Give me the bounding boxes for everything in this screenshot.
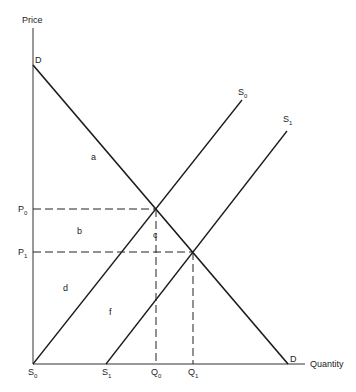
supply-demand-diagram (0, 0, 356, 392)
demand-curve (33, 65, 288, 364)
supply-curve-s1 (106, 131, 287, 364)
supply-s1-label: S1 (283, 115, 292, 126)
quantity-tick-s1: S1 (102, 368, 111, 379)
x-axis-label: Quantity (310, 360, 344, 369)
area-f-label: f (109, 308, 112, 317)
area-a-label: a (91, 153, 96, 162)
price-tick-p0: P0 (18, 205, 27, 216)
area-b-label: b (77, 227, 82, 236)
supply-s0-label: S0 (238, 88, 247, 99)
price-tick-p1: P1 (18, 248, 27, 259)
quantity-tick-q1: Q1 (188, 368, 198, 379)
quantity-tick-s0: S0 (28, 368, 37, 379)
quantity-tick-q0: Q0 (151, 368, 161, 379)
demand-label-top: D (35, 56, 42, 65)
demand-label-bottom: D (290, 355, 297, 364)
area-d-label: d (63, 284, 68, 293)
y-axis-label: Price (22, 16, 43, 25)
area-c-label: c (153, 231, 158, 240)
